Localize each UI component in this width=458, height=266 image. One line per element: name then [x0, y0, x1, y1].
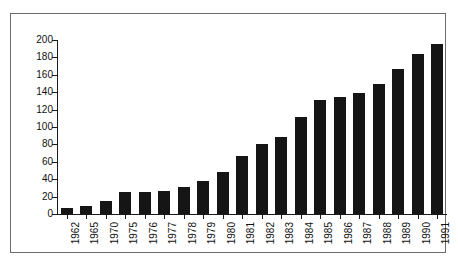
x-tick-mark	[164, 215, 165, 219]
bar-1979	[197, 181, 209, 214]
bar-1977	[158, 191, 170, 214]
x-tick-mark	[301, 215, 302, 219]
y-tick-180: 180	[57, 57, 58, 58]
y-tick-120: 120	[57, 110, 58, 111]
x-tick-mark	[359, 215, 360, 219]
x-tick-label-1984: 1984	[305, 222, 315, 244]
bar-1976	[139, 192, 151, 214]
x-tick-label-1990: 1990	[422, 222, 432, 244]
x-tick-mark	[398, 215, 399, 219]
x-tick-label-1980: 1980	[227, 222, 237, 244]
x-tick-label-1976: 1976	[149, 222, 159, 244]
y-tick-100: 100	[57, 127, 58, 128]
bar-1989	[392, 69, 404, 214]
x-tick-label-1985: 1985	[324, 222, 334, 244]
x-tick-label-1988: 1988	[383, 222, 393, 244]
y-tick-label: 120	[36, 105, 53, 115]
x-axis-line	[57, 214, 447, 215]
x-tick-label-1982: 1982	[266, 222, 276, 244]
x-tick-label-1962: 1962	[71, 222, 81, 244]
y-tick-label: 180	[36, 52, 53, 62]
y-tick-80: 80	[57, 144, 58, 145]
bar-1991	[431, 44, 443, 214]
chart-frame-border: 020406080100120140160180200 196219651970…	[10, 13, 446, 253]
y-tick-label: 140	[36, 87, 53, 97]
x-tick-mark	[340, 215, 341, 219]
y-tick-label: 60	[42, 157, 53, 167]
x-tick-label-1979: 1979	[207, 222, 217, 244]
bar-1990	[412, 54, 424, 214]
bar-1987	[353, 93, 365, 214]
x-tick-label-1991: 1991	[441, 222, 451, 244]
y-tick-label: 80	[42, 139, 53, 149]
x-tick-mark	[242, 215, 243, 219]
x-tick-label-1965: 1965	[90, 222, 100, 244]
bar-1975	[119, 192, 131, 214]
y-tick-60: 60	[57, 162, 58, 163]
x-tick-mark	[203, 215, 204, 219]
x-tick-mark	[418, 215, 419, 219]
x-tick-label-1981: 1981	[246, 222, 256, 244]
x-tick-label-1986: 1986	[344, 222, 354, 244]
bar-1986	[334, 97, 346, 214]
y-tick-200: 200	[57, 40, 58, 41]
x-tick-mark	[145, 215, 146, 219]
y-tick-140: 140	[57, 92, 58, 93]
bar-1984	[295, 117, 307, 214]
y-tick-label: 200	[36, 35, 53, 45]
x-tick-label-1989: 1989	[402, 222, 412, 244]
y-tick-40: 40	[57, 179, 58, 180]
x-tick-label-1977: 1977	[168, 222, 178, 244]
x-tick-mark	[86, 215, 87, 219]
x-tick-mark	[281, 215, 282, 219]
x-tick-mark	[437, 215, 438, 219]
bar-1983	[275, 137, 287, 214]
bar-1982	[256, 144, 268, 214]
x-tick-label-1978: 1978	[188, 222, 198, 244]
x-tick-mark	[223, 215, 224, 219]
x-tick-mark	[106, 215, 107, 219]
bar-1985	[314, 100, 326, 214]
x-tick-mark	[67, 215, 68, 219]
y-tick-label: 160	[36, 70, 53, 80]
x-tick-label-1983: 1983	[285, 222, 295, 244]
bar-1965	[80, 206, 92, 214]
y-tick-label: 100	[36, 122, 53, 132]
y-tick-label: 0	[47, 209, 53, 219]
y-tick-20: 20	[57, 197, 58, 198]
plot-area: 020406080100120140160180200 196219651970…	[57, 40, 447, 214]
bar-1988	[373, 84, 385, 215]
y-tick-160: 160	[57, 75, 58, 76]
bar-1962	[61, 208, 73, 214]
y-tick-0: 0	[57, 214, 58, 215]
y-tick-label: 40	[42, 174, 53, 184]
x-tick-label-1987: 1987	[363, 222, 373, 244]
bar-1978	[178, 187, 190, 214]
bar-1970	[100, 201, 112, 214]
x-tick-mark	[320, 215, 321, 219]
x-tick-label-1970: 1970	[110, 222, 120, 244]
x-tick-mark	[262, 215, 263, 219]
y-tick-label: 20	[42, 192, 53, 202]
bar-1981	[236, 156, 248, 214]
x-tick-mark	[379, 215, 380, 219]
x-tick-mark	[125, 215, 126, 219]
bar-1980	[217, 172, 229, 214]
x-tick-mark	[184, 215, 185, 219]
figure: 020406080100120140160180200 196219651970…	[0, 0, 458, 266]
x-tick-label-1975: 1975	[129, 222, 139, 244]
